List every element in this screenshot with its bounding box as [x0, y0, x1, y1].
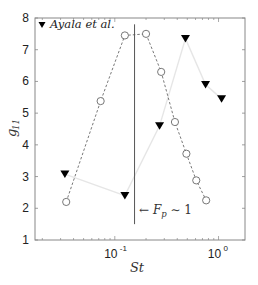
annot-rest: ∼ 1 [167, 203, 192, 217]
legend-label: Ayala et al. [49, 17, 115, 31]
circle-marker [97, 97, 104, 104]
y-tick-label: 7 [22, 43, 29, 57]
present-data-line [66, 34, 206, 202]
x-tick-exponent: -1 [120, 244, 128, 253]
legend: Ayala et al. [39, 17, 115, 31]
triangle-marker [181, 35, 190, 43]
y-tick-label: 5 [22, 106, 29, 120]
circle-marker [183, 150, 190, 157]
circle-marker [203, 197, 210, 204]
x-tick-label: 10 [208, 247, 222, 261]
y-tick-label: 8 [22, 11, 29, 25]
circle-marker [193, 177, 200, 184]
y-tick-label: 6 [22, 74, 29, 88]
chart-figure: 1234567810-1100 Ayala et al. St g 11 ← F… [0, 0, 258, 285]
y-axis-label-sub: 11 [11, 119, 21, 130]
triangle-marker [217, 95, 226, 103]
ayala-line [65, 39, 222, 196]
triangle-marker [155, 122, 164, 129]
triangle-marker [120, 192, 129, 200]
y-tick-label: 4 [22, 138, 29, 152]
svg-text:← Fp ∼ 1: ← Fp ∼ 1 [139, 203, 192, 219]
legend-triangle-icon [39, 22, 46, 28]
x-tick-exponent: 0 [224, 244, 229, 253]
axis-ticks: 1234567810-1100 [22, 11, 245, 261]
circle-marker [63, 198, 70, 205]
y-tick-label: 3 [22, 170, 29, 184]
circle-marker [142, 30, 149, 37]
data-series [60, 30, 226, 205]
annot-arrow: ← [139, 203, 153, 217]
y-axis-label: g 11 [4, 119, 21, 137]
y-tick-label: 2 [22, 201, 29, 215]
fp-annotation: ← Fp ∼ 1 [139, 203, 192, 219]
circle-marker [121, 32, 128, 39]
x-tick-label: 10 [104, 247, 118, 261]
circle-marker [158, 68, 165, 75]
triangle-marker [60, 171, 69, 179]
x-axis-label: St [130, 260, 145, 275]
circle-marker [171, 118, 178, 125]
y-tick-label: 1 [22, 233, 29, 247]
